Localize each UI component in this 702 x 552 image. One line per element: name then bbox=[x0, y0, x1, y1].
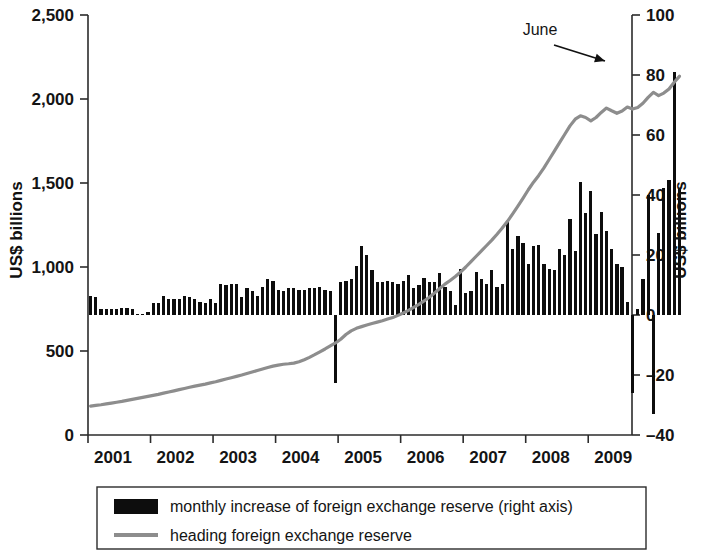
bar bbox=[178, 299, 181, 316]
bar bbox=[277, 290, 280, 316]
right-axis-title: US$ billions bbox=[671, 181, 690, 278]
bar bbox=[422, 278, 425, 316]
x-axis: 200120022003200420052006200720082009 bbox=[88, 435, 632, 467]
bar bbox=[579, 182, 582, 316]
bar bbox=[297, 290, 300, 316]
x-axis-tick-label: 2008 bbox=[532, 448, 570, 467]
bar bbox=[391, 282, 394, 315]
right-axis-tick-label: –20 bbox=[646, 366, 674, 385]
bar bbox=[600, 212, 603, 316]
bar bbox=[506, 222, 509, 315]
bar bbox=[94, 297, 97, 315]
x-axis-tick-label: 2001 bbox=[94, 448, 132, 467]
bar bbox=[521, 243, 524, 315]
bar bbox=[360, 246, 363, 315]
bar bbox=[396, 284, 399, 316]
bar bbox=[386, 281, 389, 316]
bar bbox=[318, 287, 321, 316]
bar bbox=[344, 281, 347, 316]
bar bbox=[266, 279, 269, 315]
bar bbox=[303, 290, 306, 316]
bar bbox=[204, 303, 207, 315]
bar bbox=[417, 285, 420, 315]
bar bbox=[136, 314, 139, 316]
bar bbox=[376, 282, 379, 315]
bar bbox=[485, 284, 488, 316]
bar bbox=[433, 282, 436, 315]
bar bbox=[490, 270, 493, 315]
bar bbox=[209, 299, 212, 316]
bar bbox=[89, 296, 92, 316]
bar bbox=[261, 287, 264, 316]
right-axis-tick-label: 80 bbox=[646, 66, 665, 85]
x-axis-tick-label: 2009 bbox=[594, 448, 632, 467]
bar bbox=[662, 188, 665, 316]
bar bbox=[475, 272, 478, 316]
bar bbox=[282, 291, 285, 315]
bar bbox=[141, 314, 144, 316]
left-axis-tick-label: 0 bbox=[65, 426, 74, 445]
bar bbox=[245, 288, 248, 315]
annotation-arrow-head bbox=[594, 54, 605, 63]
bar bbox=[438, 273, 441, 315]
bar bbox=[464, 293, 467, 316]
right-axis-tick-label: –40 bbox=[646, 426, 674, 445]
bar bbox=[542, 264, 545, 315]
bar bbox=[370, 270, 373, 315]
right-axis-tick-label: 100 bbox=[646, 6, 674, 25]
x-axis-tick-label: 2004 bbox=[282, 448, 320, 467]
bar bbox=[657, 233, 660, 316]
bar bbox=[131, 309, 134, 315]
bar bbox=[636, 309, 639, 315]
bar bbox=[480, 279, 483, 315]
bar bbox=[641, 279, 644, 315]
bar bbox=[558, 249, 561, 315]
bar bbox=[381, 282, 384, 315]
bar bbox=[240, 297, 243, 315]
bar bbox=[527, 264, 530, 315]
bar bbox=[548, 269, 551, 316]
bar bbox=[339, 282, 342, 315]
right-axis-tick-label: 60 bbox=[646, 126, 665, 145]
bar bbox=[620, 267, 623, 315]
left-axis-title: US$ billions bbox=[7, 181, 26, 278]
bar bbox=[167, 299, 170, 316]
bar bbox=[553, 270, 556, 315]
bar bbox=[610, 249, 613, 315]
bar bbox=[287, 288, 290, 315]
bar bbox=[537, 245, 540, 316]
bar bbox=[495, 287, 498, 316]
bar bbox=[292, 288, 295, 315]
bar bbox=[469, 291, 472, 315]
bar bbox=[454, 305, 457, 316]
bar bbox=[214, 303, 217, 315]
bar bbox=[402, 281, 405, 316]
left-axis-tick-label: 2,000 bbox=[31, 90, 74, 109]
left-axis-tick-label: 1,500 bbox=[31, 174, 74, 193]
bar bbox=[412, 288, 415, 315]
bar bbox=[563, 255, 566, 315]
legend-label: heading foreign exchange reserve bbox=[170, 527, 412, 544]
bar bbox=[162, 296, 165, 316]
bar bbox=[355, 266, 358, 316]
left-axis: 05001,0001,5002,0002,500 bbox=[31, 6, 88, 445]
bar bbox=[115, 309, 118, 315]
bar bbox=[574, 251, 577, 316]
bar bbox=[172, 299, 175, 316]
june-annotation: June bbox=[523, 21, 605, 62]
bar bbox=[449, 291, 452, 315]
bar bbox=[584, 213, 587, 315]
x-axis-tick-label: 2003 bbox=[219, 448, 257, 467]
foreign-exchange-reserve-chart: 05001,0001,5002,0002,500 –40–20020406080… bbox=[0, 0, 702, 552]
bar bbox=[235, 284, 238, 316]
x-axis-tick-label: 2005 bbox=[344, 448, 382, 467]
bar-series-monthly-increase bbox=[89, 72, 681, 414]
bar bbox=[256, 296, 259, 316]
bar bbox=[251, 291, 254, 315]
bar bbox=[532, 246, 535, 315]
bar bbox=[188, 297, 191, 315]
bar bbox=[615, 264, 618, 315]
bar bbox=[605, 231, 608, 315]
legend-swatch-bar bbox=[114, 499, 158, 514]
annotation-label-june: June bbox=[523, 21, 558, 38]
